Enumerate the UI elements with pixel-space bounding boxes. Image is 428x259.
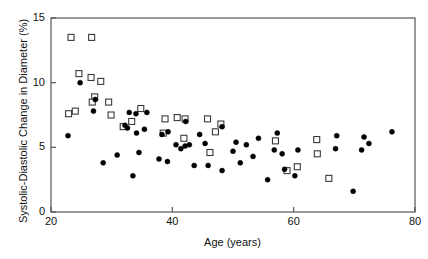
y-tick-label-10: 10 (17, 76, 45, 88)
marker-filled-circle (203, 141, 208, 146)
marker-filled-circle (136, 150, 141, 155)
x-axis-title: Age (years) (50, 236, 415, 248)
data-markers (65, 34, 394, 193)
marker-open-square (88, 74, 94, 80)
marker-open-square (68, 34, 74, 40)
marker-filled-circle (125, 125, 130, 130)
marker-filled-circle (127, 110, 132, 115)
marker-filled-circle (275, 131, 280, 136)
marker-filled-circle (192, 163, 197, 168)
marker-filled-circle (78, 80, 83, 85)
marker-filled-circle (295, 147, 300, 152)
marker-filled-circle (389, 129, 394, 134)
marker-open-square (294, 164, 300, 170)
series-filled-circle-group (65, 80, 394, 194)
marker-filled-circle (166, 129, 171, 134)
marker-open-square (66, 111, 72, 117)
marker-open-square (207, 150, 213, 156)
marker-filled-circle (238, 160, 243, 165)
marker-filled-circle (165, 159, 170, 164)
marker-filled-circle (292, 173, 297, 178)
x-tick-label-80: 80 (400, 215, 428, 227)
marker-filled-circle (93, 97, 98, 102)
marker-filled-circle (197, 132, 202, 137)
marker-filled-circle (244, 142, 249, 147)
marker-filled-circle (173, 142, 178, 147)
marker-open-square (162, 116, 168, 122)
scatter-plot-figure: Systolic-Diastolic Change in Diameter (%… (0, 0, 428, 259)
marker-open-square (314, 137, 320, 143)
marker-filled-circle (206, 163, 211, 168)
marker-filled-circle (366, 141, 371, 146)
marker-filled-circle (115, 153, 120, 158)
marker-filled-circle (334, 133, 339, 138)
marker-filled-circle (142, 127, 147, 132)
marker-open-square (108, 112, 114, 118)
marker-filled-circle (133, 111, 138, 116)
marker-open-square (129, 118, 135, 124)
axis-ticks (51, 18, 415, 212)
marker-filled-circle (160, 132, 165, 137)
marker-filled-circle (333, 146, 338, 151)
marker-open-square (205, 116, 211, 122)
x-tick-label-60: 60 (279, 215, 309, 227)
x-tick-label-20: 20 (36, 215, 66, 227)
y-axis-title: Systolic-Diastolic Change in Diameter (%… (17, 16, 29, 226)
marker-filled-circle (362, 134, 367, 139)
marker-filled-circle (251, 154, 256, 159)
marker-filled-circle (91, 109, 96, 114)
marker-open-square (174, 115, 180, 121)
marker-open-square (272, 138, 278, 144)
marker-filled-circle (280, 151, 285, 156)
marker-open-square (106, 99, 112, 105)
marker-open-square (72, 108, 78, 114)
marker-filled-circle (220, 124, 225, 129)
marker-open-square (326, 175, 332, 181)
marker-filled-circle (282, 167, 287, 172)
marker-open-square (314, 151, 320, 157)
marker-open-square (89, 34, 95, 40)
marker-filled-circle (265, 177, 270, 182)
marker-filled-circle (134, 131, 139, 136)
marker-filled-circle (101, 160, 106, 165)
series-open-square-group (66, 34, 332, 181)
marker-filled-circle (351, 189, 356, 194)
marker-open-square (98, 78, 104, 84)
marker-filled-circle (130, 173, 135, 178)
marker-filled-circle (231, 149, 236, 154)
x-tick-label-40: 40 (157, 215, 187, 227)
marker-filled-circle (234, 140, 239, 145)
marker-filled-circle (183, 119, 188, 124)
marker-open-square (181, 135, 187, 141)
marker-filled-circle (220, 168, 225, 173)
marker-filled-circle (359, 147, 364, 152)
marker-open-square (212, 129, 218, 135)
axes-frame (51, 18, 415, 212)
marker-open-square (76, 71, 82, 77)
y-tick-label-5: 5 (17, 140, 45, 152)
marker-filled-circle (156, 156, 161, 161)
marker-filled-circle (187, 142, 192, 147)
y-tick-label-15: 15 (17, 11, 45, 23)
marker-filled-circle (144, 110, 149, 115)
marker-filled-circle (256, 136, 261, 141)
marker-filled-circle (65, 133, 70, 138)
marker-filled-circle (272, 147, 277, 152)
marker-open-square (138, 106, 144, 112)
